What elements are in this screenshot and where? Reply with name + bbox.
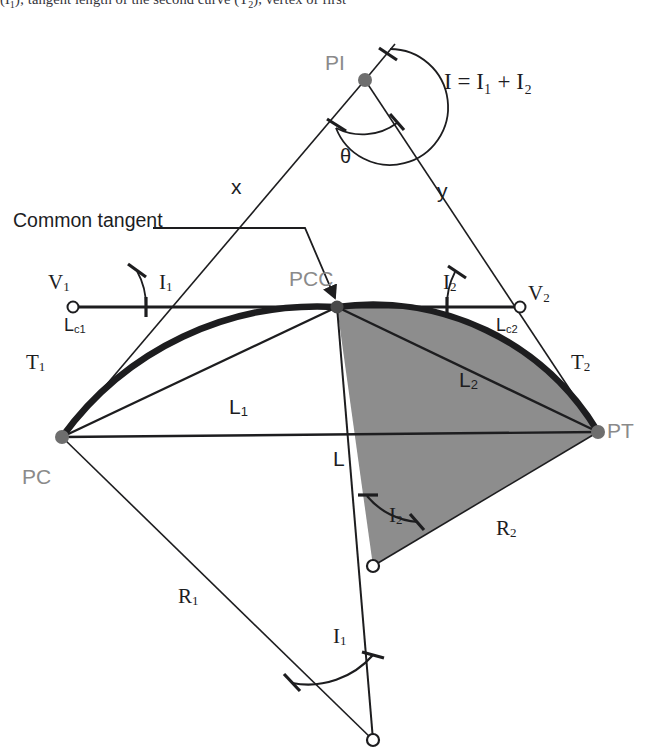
label-y: y [437, 180, 448, 201]
compound-curve-diagram [0, 0, 656, 748]
label-pi: PI [325, 52, 345, 73]
label-v1-sub: 1 [63, 279, 70, 294]
station-dot-v1 [68, 302, 79, 313]
label-r2-text: R [496, 516, 510, 540]
label-t2-text: T [571, 350, 584, 374]
label-r2-sub: 2 [510, 525, 517, 540]
angle-arc-I1-center1 [292, 655, 373, 685]
label-i2-center-text: I [389, 503, 396, 527]
label-r2: R2 [496, 518, 517, 539]
label-v2-sub: 2 [543, 290, 550, 305]
label-i1-center-sub: 1 [340, 633, 347, 648]
label-v1-text: V [48, 270, 63, 294]
label-t2: T2 [571, 352, 590, 373]
label-i1-top-text: I [159, 270, 166, 294]
radius-r1 [62, 437, 373, 740]
station-dot-pcc [331, 301, 344, 314]
label-x: x [231, 176, 242, 197]
label-lc2-text: L [496, 315, 506, 335]
label-v1: V1 [48, 272, 70, 293]
label-l2: L2 [459, 369, 478, 391]
label-pt: PT [607, 420, 634, 441]
label-t1-sub: 1 [39, 359, 46, 374]
label-theta: θ [340, 146, 351, 166]
station-dot-pi [358, 73, 372, 87]
station-dot-pc [55, 430, 69, 444]
label-lc1-text: L [64, 315, 74, 335]
station-dot-pt [591, 425, 605, 439]
label-lc1: Lc1 [64, 316, 86, 335]
label-i2-center-sub: 2 [396, 512, 403, 527]
label-lc2: Lc2 [496, 316, 518, 335]
station-dot-center-curve1 [367, 734, 379, 746]
label-l1-text: L [229, 395, 241, 418]
label-l1: L1 [229, 396, 248, 418]
diagram-stage: (I1); tangent length of the second curve… [0, 0, 656, 748]
label-i1-center: I1 [333, 626, 347, 647]
tick-tangent-x-v1 [128, 264, 146, 277]
label-i2-top-text: I [443, 270, 450, 294]
label-i2-center: I2 [389, 505, 403, 526]
label-i1-top-sub: 1 [166, 279, 173, 294]
label-r1-text: R [178, 584, 192, 608]
label-i2-top: I2 [443, 272, 457, 293]
label-v2-text: V [528, 281, 543, 305]
label-r1: R1 [178, 586, 199, 607]
label-equation: I = I₁ + I₂ [444, 70, 532, 93]
angle-arc-I [336, 49, 448, 165]
label-v2: V2 [528, 283, 550, 304]
station-dot-v2 [515, 302, 526, 313]
label-pc: PC [22, 466, 51, 487]
label-l: L [333, 448, 345, 469]
label-i1-center-text: I [333, 624, 340, 648]
label-t1-text: T [26, 350, 39, 374]
label-lc2-sub: c2 [506, 323, 518, 335]
label-i2-top-sub: 2 [450, 279, 457, 294]
label-pcc: PCC [289, 268, 333, 289]
tick-radius-r1-o1 [284, 674, 300, 691]
station-dot-center-curve2 [367, 560, 379, 572]
label-lc1-sub: c1 [74, 323, 86, 335]
label-i1-top: I1 [159, 272, 173, 293]
label-l2-sub: 2 [471, 377, 478, 392]
label-r1-sub: 1 [192, 593, 199, 608]
label-t1: T1 [26, 352, 45, 373]
label-l2-text: L [459, 368, 471, 391]
label-t2-sub: 2 [584, 359, 591, 374]
label-l1-sub: 1 [241, 404, 248, 419]
label-common-tangent: Common tangent [13, 211, 163, 231]
